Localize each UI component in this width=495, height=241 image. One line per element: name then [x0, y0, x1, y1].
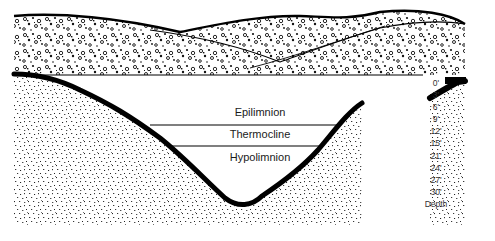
- thermocline-label: Thermocline: [210, 128, 310, 140]
- depth-tick: 3': [423, 89, 449, 101]
- depth-tick: 21': [423, 150, 449, 162]
- depth-scale: 0' 3' 6' 9' 12' 15' 21' 24' 27' 30' Dept…: [423, 77, 449, 210]
- hypolimnion-label: Hypolimnion: [210, 151, 310, 163]
- depth-tick: 6': [423, 101, 449, 113]
- depth-tick: 12': [423, 125, 449, 137]
- epilimnion-label: Epilimnion: [210, 106, 310, 118]
- depth-tick: 9': [423, 113, 449, 125]
- depth-tick: 24': [423, 162, 449, 174]
- upper-soil-layer: [14, 11, 465, 75]
- depth-tick: 0': [423, 77, 449, 89]
- depth-tick: 15': [423, 137, 449, 149]
- depth-tick: 27': [423, 174, 449, 186]
- depth-scale-title: Depth: [419, 198, 453, 210]
- depth-tick: 30': [423, 186, 449, 198]
